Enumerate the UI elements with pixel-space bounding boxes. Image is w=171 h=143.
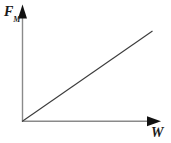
graph-figure: FM W [0, 0, 171, 143]
x-axis-label: W [151, 126, 163, 140]
y-axis-label-main: F [4, 4, 13, 19]
plot-canvas [0, 0, 171, 143]
y-axis-label-subscript: M [13, 15, 20, 24]
data-line-proportional [22, 31, 153, 122]
x-axis-label-main: W [151, 125, 163, 140]
y-axis-label: FM [4, 5, 20, 22]
